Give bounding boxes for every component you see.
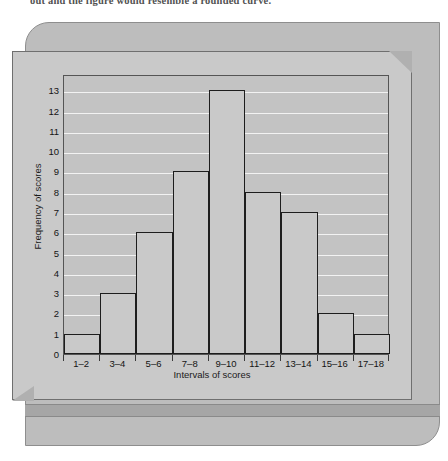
bar [318,313,354,354]
x-tick-label: 13–14 [285,358,311,369]
y-tick-label: 13 [37,86,59,96]
y-tick-label: 12 [37,107,59,117]
bar [245,192,281,354]
y-tick-label: 0 [37,350,59,360]
x-tick-label: 5–6 [146,358,162,369]
y-axis-tick-labels: 012345678910111213 [34,75,59,355]
x-tick-label: 3–4 [109,358,125,369]
y-tick-label: 11 [37,127,59,137]
bar [173,171,209,354]
bar [136,232,172,354]
y-tick-label: 6 [37,229,59,239]
y-tick-label: 5 [37,249,59,259]
figure-backplate-shelf [25,404,440,417]
x-tick-label: 11–12 [249,358,275,369]
bar [354,334,390,354]
x-tick-label: 7–8 [182,358,198,369]
bar [64,334,100,354]
bar [209,90,245,354]
bar [281,212,317,354]
y-tick-label: 2 [37,310,59,320]
x-axis-title: Intervals of scores [12,369,412,380]
y-tick-label: 4 [37,269,59,279]
y-tick-label: 1 [37,330,59,340]
y-tick-label: 9 [37,168,59,178]
x-tick-label: 9–10 [215,358,236,369]
plot-area [63,75,389,355]
x-tick-label: 1–2 [73,358,89,369]
x-tick-label: 17–18 [358,358,384,369]
histogram-chart: Frequency of scores 012345678910111213 1… [12,51,412,400]
y-tick-label: 3 [37,289,59,299]
figure-caption-text: out and the figure would resemble a roun… [30,0,420,7]
y-tick-label: 7 [37,208,59,218]
x-tick-label: 15–16 [321,358,347,369]
y-tick-label: 10 [37,147,59,157]
bar [100,293,136,354]
y-tick-label: 8 [37,188,59,198]
